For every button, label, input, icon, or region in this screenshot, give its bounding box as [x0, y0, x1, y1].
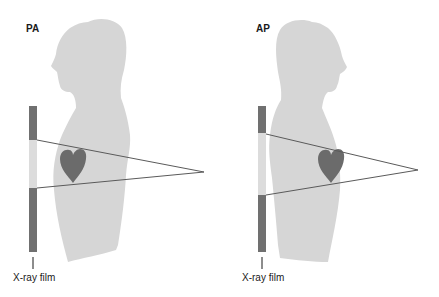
patient-silhouette	[51, 19, 130, 262]
pa-diagram	[0, 0, 220, 297]
xray-film-top	[258, 106, 266, 133]
xray-film-exposed	[258, 133, 266, 195]
ap-diagram	[220, 0, 439, 297]
pa-panel: PA X-ray film	[0, 0, 220, 297]
view-label-ap: AP	[256, 23, 270, 34]
film-label-pa: X-ray film	[13, 272, 55, 283]
xray-film-top	[29, 106, 37, 140]
film-label-ap: X-ray film	[242, 272, 284, 283]
xray-film-bottom	[29, 188, 37, 252]
ap-panel: AP X-ray film	[220, 0, 439, 297]
xray-film-exposed	[29, 140, 37, 188]
xray-film-bottom	[258, 195, 266, 252]
view-label-pa: PA	[26, 23, 39, 34]
patient-silhouette	[269, 20, 347, 262]
